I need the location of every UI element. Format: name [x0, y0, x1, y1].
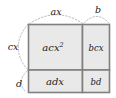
cell-label-bottom-left-base: adx — [46, 76, 64, 87]
cell-label-bottom-right: bd — [91, 77, 102, 87]
cell-label-top-left-exponent: 2 — [59, 40, 64, 48]
cell-label-top-right: bcx — [89, 43, 104, 53]
diagram-canvas: acx2 bcx adx bd ax b cx d — [0, 0, 116, 98]
area-model-diagram: acx2 bcx adx bd ax b cx d — [0, 0, 116, 98]
cell-label-bottom-right-base: bd — [91, 77, 102, 87]
edge-label-left-tall: cx — [8, 41, 19, 52]
edge-label-top-wide: ax — [50, 6, 62, 17]
cell-label-bottom-left: adx — [46, 76, 64, 87]
edge-label-top-narrow: b — [95, 4, 101, 15]
guide-arc-left-tall — [18, 24, 28, 69]
edge-label-left-short: d — [16, 78, 22, 89]
guide-arc-top-narrow — [84, 17, 109, 24]
cell-label-top-right-base: bcx — [89, 43, 104, 53]
cell-label-top-left-base: acx — [42, 42, 60, 53]
guide-arc-left-short — [21, 71, 27, 92]
